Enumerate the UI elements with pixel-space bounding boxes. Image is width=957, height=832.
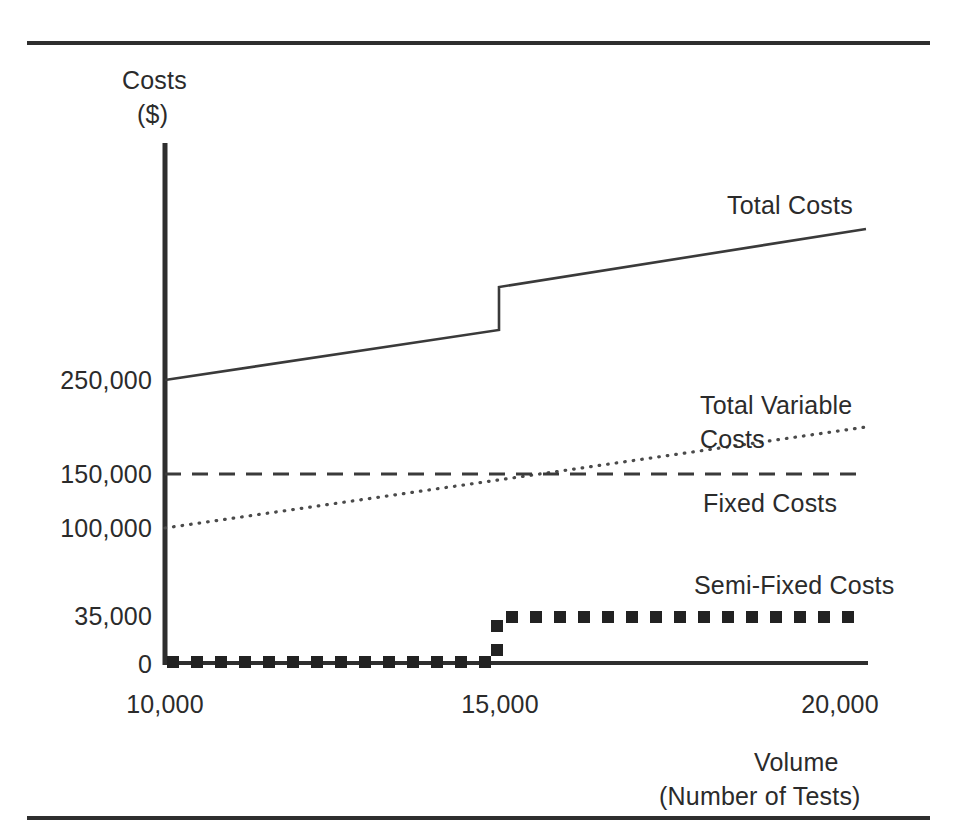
x-axis-subtitle: (Number of Tests) xyxy=(659,782,861,811)
x-tick-label-15000: 15,000 xyxy=(420,690,580,719)
y-axis-title: Costs xyxy=(122,66,187,95)
series-semi-fixed-costs xyxy=(167,617,858,662)
cost-behavior-chart-figure: Costs ($) 250,000 150,000 100,000 35,000… xyxy=(0,0,957,832)
x-tick-label-20000: 20,000 xyxy=(760,690,920,719)
y-tick-label-250000: 250,000 xyxy=(0,366,152,395)
series-label-semi-fixed-costs: Semi-Fixed Costs xyxy=(694,571,894,600)
y-axis-unit-label: ($) xyxy=(137,100,168,129)
y-tick-label-0: 0 xyxy=(0,650,152,679)
y-tick-label-150000: 150,000 xyxy=(0,460,152,489)
series-label-total-costs: Total Costs xyxy=(727,191,853,220)
y-tick-label-35000: 35,000 xyxy=(0,602,152,631)
series-label-total-variable-costs-line1: Total Variable xyxy=(700,391,852,420)
x-tick-label-10000: 10,000 xyxy=(85,690,245,719)
x-axis-title: Volume xyxy=(754,748,839,777)
series-label-total-variable-costs-line2: Costs xyxy=(700,425,765,454)
series-label-fixed-costs: Fixed Costs xyxy=(703,489,837,518)
y-tick-label-100000: 100,000 xyxy=(0,514,152,543)
series-total-costs xyxy=(165,229,866,380)
